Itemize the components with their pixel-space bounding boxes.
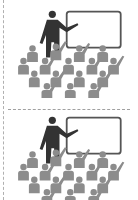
classroom-presentation-icon (8, 114, 138, 200)
dashed-left-border (3, 0, 4, 200)
dashed-separator (8, 109, 130, 110)
classroom-presentation-icon (8, 8, 138, 98)
